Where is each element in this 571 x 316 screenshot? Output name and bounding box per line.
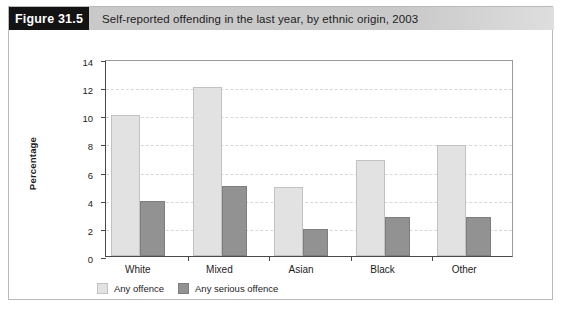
- bar: [356, 160, 385, 256]
- figure-title-band: Self-reported offending in the last year…: [89, 7, 554, 30]
- y-axis-title: Percentage: [27, 119, 38, 209]
- gridline: [106, 89, 512, 90]
- bar: [140, 201, 165, 256]
- legend-swatch: [178, 283, 189, 294]
- legend-item: Any offence: [97, 283, 164, 294]
- y-tick-mark: 2: [101, 230, 106, 231]
- x-category-label: Asian: [288, 264, 313, 275]
- x-category-label: Black: [370, 264, 394, 275]
- chart-legend: Any offenceAny serious offence: [97, 283, 278, 294]
- bar: [222, 186, 247, 256]
- legend-item: Any serious offence: [178, 283, 278, 294]
- y-tick-label: 2: [88, 225, 93, 236]
- y-tick-mark: 8: [101, 145, 106, 146]
- gridline: [106, 117, 512, 118]
- x-tick-mark: [269, 256, 270, 261]
- x-category-label: Other: [452, 264, 477, 275]
- bar: [193, 87, 222, 256]
- bar: [274, 187, 303, 256]
- y-tick-mark: 4: [101, 202, 106, 203]
- bar: [466, 217, 491, 256]
- y-tick-label: 8: [88, 141, 93, 152]
- y-tick-label: 4: [88, 197, 93, 208]
- figure-frame: Figure 31.5 Self-reported offending in t…: [8, 6, 553, 300]
- x-tick-mark: [432, 256, 433, 261]
- legend-label: Any serious offence: [195, 283, 278, 294]
- x-category-label: Mixed: [206, 264, 233, 275]
- plot-area: 02468101214 WhiteMixedAsianBlackOther: [105, 60, 513, 257]
- legend-label: Any offence: [114, 283, 164, 294]
- y-tick-mark: 6: [101, 174, 106, 175]
- y-tick-mark: 14: [101, 61, 106, 62]
- y-tick-mark: 10: [101, 117, 106, 118]
- figure-number-badge: Figure 31.5: [9, 7, 89, 30]
- bar: [111, 115, 140, 256]
- y-tick-label: 14: [82, 57, 93, 68]
- chart-canvas: Percentage 02468101214 WhiteMixedAsianBl…: [9, 30, 554, 300]
- legend-swatch: [97, 283, 108, 294]
- figure-title: Self-reported offending in the last year…: [102, 13, 418, 25]
- x-tick-mark: [188, 256, 189, 261]
- bar: [303, 229, 328, 256]
- y-tick-label: 6: [88, 169, 93, 180]
- bar: [437, 145, 466, 256]
- y-tick-label: 10: [82, 113, 93, 124]
- x-category-label: White: [125, 264, 151, 275]
- bar: [385, 217, 410, 256]
- y-tick-label: 0: [88, 254, 93, 265]
- y-tick-mark: 12: [101, 89, 106, 90]
- y-tick-mark: 0: [101, 258, 106, 259]
- y-tick-label: 12: [82, 85, 93, 96]
- figure-header: Figure 31.5 Self-reported offending in t…: [9, 7, 554, 30]
- x-tick-mark: [351, 256, 352, 261]
